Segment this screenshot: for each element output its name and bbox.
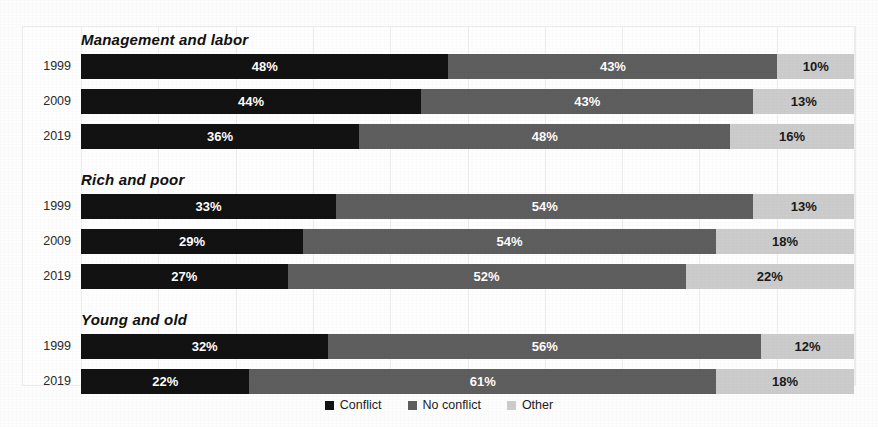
legend-swatch-icon [507, 401, 516, 410]
bar-row: 32%56%12% [81, 334, 854, 359]
legend-swatch-icon [325, 401, 334, 410]
bar-value-label: 13% [791, 94, 817, 109]
bar-segment-other: 22% [686, 264, 854, 289]
group-title-0: Management and labor [81, 31, 248, 48]
axis-label-year: 2009 [19, 89, 71, 114]
legend-item-conflict[interactable]: Conflict [325, 398, 382, 412]
plot-area: Management and labor199948%43%10%200944%… [23, 27, 855, 385]
bar-row: 36%48%16% [81, 124, 854, 149]
bar-value-label: 54% [497, 234, 523, 249]
bar-value-label: 61% [470, 374, 496, 389]
axis-label-year: 1999 [19, 54, 71, 79]
bar-segment-conflict: 22% [81, 369, 249, 394]
bar-value-label: 22% [757, 269, 783, 284]
axis-label-year: 2019 [19, 264, 71, 289]
bar-row: 33%54%13% [81, 194, 854, 219]
bar-segment-no-conflict: 43% [421, 89, 753, 114]
bar-segment-other: 16% [730, 124, 854, 149]
bar-segment-no-conflict: 61% [249, 369, 716, 394]
axis-label-year: 2019 [19, 124, 71, 149]
bar-segment-other: 18% [716, 369, 854, 394]
axis-label-year: 2009 [19, 229, 71, 254]
legend-item-other[interactable]: Other [507, 398, 553, 412]
cropped-page-title: ........ ...... ..... ... [250, 0, 630, 6]
bar-value-label: 18% [772, 234, 798, 249]
bar-value-label: 32% [192, 339, 218, 354]
legend-label: Other [522, 398, 553, 412]
bar-value-label: 29% [179, 234, 205, 249]
bar-value-label: 12% [795, 339, 821, 354]
stacked-bar-chart: Management and labor199948%43%10%200944%… [22, 26, 856, 386]
bar-value-label: 13% [791, 199, 817, 214]
bar-segment-other: 13% [753, 194, 853, 219]
bar-segment-other: 10% [777, 54, 854, 79]
bar-row: 44%43%13% [81, 89, 854, 114]
bar-value-label: 16% [779, 129, 805, 144]
chart-legend: ConflictNo conflictOther [0, 398, 878, 412]
legend-item-no-conflict[interactable]: No conflict [408, 398, 481, 412]
bar-row: 29%54%18% [81, 229, 854, 254]
bar-segment-no-conflict: 54% [336, 194, 753, 219]
bar-segment-other: 12% [761, 334, 854, 359]
legend-label: No conflict [423, 398, 481, 412]
bar-row: 27%52%22% [81, 264, 854, 289]
bar-segment-conflict: 33% [81, 194, 336, 219]
bar-segment-conflict: 44% [81, 89, 421, 114]
axis-label-year: 1999 [19, 194, 71, 219]
bar-segment-other: 18% [716, 229, 854, 254]
bar-segment-conflict: 48% [81, 54, 448, 79]
group-title-1: Rich and poor [81, 171, 184, 188]
bar-value-label: 27% [171, 269, 197, 284]
bar-value-label: 48% [532, 129, 558, 144]
bar-value-label: 56% [532, 339, 558, 354]
bar-segment-no-conflict: 43% [448, 54, 777, 79]
bar-segment-no-conflict: 48% [359, 124, 730, 149]
bar-value-label: 36% [207, 129, 233, 144]
bar-segment-no-conflict: 52% [288, 264, 686, 289]
bar-value-label: 10% [803, 59, 829, 74]
bar-value-label: 43% [574, 94, 600, 109]
bar-value-label: 18% [772, 374, 798, 389]
axis-label-year: 2019 [19, 369, 71, 394]
legend-swatch-icon [408, 401, 417, 410]
bar-value-label: 33% [196, 199, 222, 214]
bar-row: 48%43%10% [81, 54, 854, 79]
bar-segment-no-conflict: 54% [303, 229, 716, 254]
bar-segment-conflict: 27% [81, 264, 288, 289]
axis-label-year: 1999 [19, 334, 71, 359]
bar-segment-other: 13% [753, 89, 853, 114]
bar-value-label: 43% [600, 59, 626, 74]
bar-segment-conflict: 36% [81, 124, 359, 149]
legend-label: Conflict [340, 398, 382, 412]
bar-segment-conflict: 29% [81, 229, 303, 254]
gridline [854, 27, 855, 385]
bar-value-label: 48% [252, 59, 278, 74]
bar-segment-no-conflict: 56% [328, 334, 761, 359]
bar-value-label: 22% [152, 374, 178, 389]
group-title-2: Young and old [81, 311, 187, 328]
bar-row: 22%61%18% [81, 369, 854, 394]
bar-value-label: 54% [532, 199, 558, 214]
bar-value-label: 52% [474, 269, 500, 284]
bar-value-label: 44% [238, 94, 264, 109]
bar-segment-conflict: 32% [81, 334, 328, 359]
